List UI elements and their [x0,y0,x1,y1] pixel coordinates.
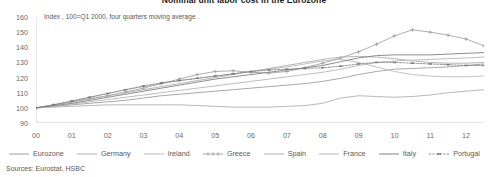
legend-marker-dotted-line-with-dash [428,150,450,157]
x-tick-label: 01 [61,131,83,140]
x-tick-label: 07 [276,131,298,140]
y-tick-label: 100 [2,104,28,113]
legend-marker-solid-line [318,150,340,157]
legend-marker-solid-line [8,150,30,157]
legend-label: Germany [101,149,131,158]
x-tick-label: 08 [312,131,334,140]
x-tick-label: 04 [168,131,190,140]
legend-item-france[interactable]: France [318,149,365,158]
legend-label: France [343,149,365,158]
legend-marker-solid-line [76,150,98,157]
chart-title: Nominal unit labor cost in the Eurozone [0,0,488,5]
x-tick-label: 06 [240,131,262,140]
legend-item-greece[interactable]: Greece [202,149,251,158]
y-tick-label: 120 [2,74,28,83]
legend-item-germany[interactable]: Germany [76,149,131,158]
legend-item-spain[interactable]: Spain [263,149,306,158]
legend-item-eurozone[interactable]: Eurozone [8,149,64,158]
x-tick-label: 09 [348,131,370,140]
x-tick-label: 12 [455,131,477,140]
legend-label: Greece [227,149,251,158]
chart-legend: EurozoneGermanyIrelandGreeceSpainFranceI… [0,146,488,160]
y-tick-label: 140 [2,43,28,52]
legend-marker-solid-line [378,150,400,157]
y-tick-label: 150 [2,28,28,37]
y-tick-label: 160 [2,13,28,22]
sources-note: Sources: Eurostat, HSBC [6,165,85,172]
x-tick-label: 03 [133,131,155,140]
series-canvas [36,17,484,123]
y-tick-label: 110 [2,89,28,98]
legend-marker-solid-line [143,150,165,157]
x-tick-label: 10 [383,131,405,140]
legend-label: Portugal [453,149,480,158]
legend-label: Italy [403,149,416,158]
series-line-france [36,57,484,108]
legend-label: Spain [288,149,306,158]
legend-label: Ireland [168,149,190,158]
series-line-germany [36,90,484,108]
series-line-ireland [36,59,484,107]
y-tick-label: 130 [2,58,28,67]
legend-marker-solid-line [263,150,285,157]
legend-marker-line-with-plus [202,150,224,157]
y-tick-label: 90 [2,119,28,128]
x-tick-label: 11 [419,131,441,140]
legend-item-italy[interactable]: Italy [378,149,416,158]
x-tick-label: 05 [204,131,226,140]
series-line-portugal [36,62,484,107]
x-tick-label: 02 [97,131,119,140]
legend-item-ireland[interactable]: Ireland [143,149,190,158]
legend-label: Eurozone [33,149,64,158]
x-tick-label: 00 [25,131,47,140]
legend-item-portugal[interactable]: Portugal [428,149,480,158]
plot-area [36,17,484,123]
chart-container: Nominal unit labor cost in the Eurozone … [0,0,488,177]
